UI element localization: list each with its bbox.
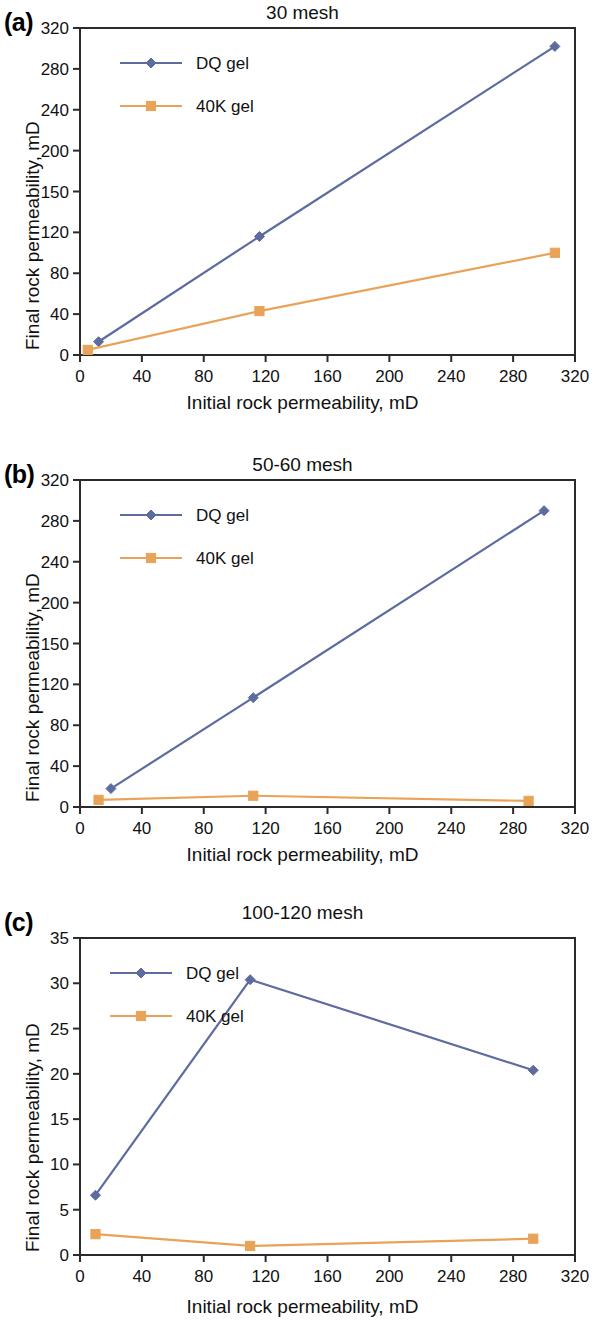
chart-panel-a: (a) 30 mesh 0408012016020024028032004080… [0,0,605,440]
data-point-marker [529,1234,538,1243]
series-line-dq-gel [111,511,544,789]
data-point-marker [94,795,103,804]
y-tick-label: 150 [41,183,69,202]
legend-marker-40k-gel [136,1011,145,1020]
plot-frame [80,480,575,807]
x-tick-label: 80 [194,367,213,386]
legend-marker-dq-gel [146,510,156,520]
legend-marker-40k-gel [146,101,155,110]
x-tick-label: 280 [499,819,527,838]
legend-marker-40k-gel [146,553,155,562]
y-tick-label: 0 [60,346,69,365]
x-tick-label: 40 [132,1267,151,1286]
series-line-40k-gel [95,1234,533,1246]
data-point-marker [550,248,559,257]
legend-marker-dq-gel [136,968,146,978]
series-line-40k-gel [88,253,555,350]
y-tick-label: 10 [50,1155,69,1174]
y-tick-label: 120 [41,223,69,242]
data-point-marker [249,791,258,800]
y-tick-label: 320 [41,471,69,490]
plot-area-c: 0408012016020024028032005101520253035DQ … [0,900,605,1300]
legend-label-dq-gel: DQ gel [186,964,239,983]
y-tick-label: 30 [50,974,69,993]
x-tick-label: 160 [313,367,341,386]
y-tick-label: 5 [60,1201,69,1220]
legend-label-dq-gel: DQ gel [196,54,249,73]
y-tick-label: 240 [41,553,69,572]
data-point-marker [91,1230,100,1239]
plot-area-b: 0408012016020024028032004080120150200240… [0,452,605,852]
x-tick-label: 320 [561,1267,589,1286]
y-tick-label: 280 [41,512,69,531]
y-tick-label: 280 [41,60,69,79]
x-tick-label: 120 [251,367,279,386]
chart-panel-c: (c) 100-120 mesh 04080120160200240280320… [0,900,605,1334]
x-tick-label: 240 [437,367,465,386]
chart-panel-b: (b) 50-60 mesh 0408012016020024028032004… [0,452,605,892]
x-tick-label: 120 [251,819,279,838]
plot-area-a: 0408012016020024028032004080120150200240… [0,0,605,400]
x-tick-label: 120 [251,1267,279,1286]
x-tick-label: 80 [194,1267,213,1286]
x-axis-title-c: Initial rock permeability, mD [0,1296,605,1318]
legend-label-40k-gel: 40K gel [186,1007,244,1026]
y-tick-label: 35 [50,929,69,948]
y-tick-label: 320 [41,19,69,38]
x-tick-label: 160 [313,819,341,838]
y-axis-title-b: Final rock permeability, mD [22,573,44,802]
y-tick-label: 80 [50,716,69,735]
x-tick-label: 40 [132,367,151,386]
y-tick-label: 0 [60,798,69,817]
data-point-marker [524,796,533,805]
legend-marker-dq-gel [146,58,156,68]
x-tick-label: 160 [313,1267,341,1286]
x-tick-label: 240 [437,1267,465,1286]
x-tick-label: 280 [499,367,527,386]
legend-label-40k-gel: 40K gel [196,97,254,116]
y-tick-label: 80 [50,264,69,283]
x-tick-label: 320 [561,819,589,838]
series-line-40k-gel [99,796,529,801]
x-axis-title-b: Initial rock permeability, mD [0,844,605,866]
y-tick-label: 40 [50,757,69,776]
data-point-marker [528,1065,538,1075]
x-tick-label: 40 [132,819,151,838]
y-tick-label: 15 [50,1110,69,1129]
plot-frame [80,938,575,1255]
figure-permeability-comparison: (a) 30 mesh 0408012016020024028032004080… [0,0,605,1334]
y-tick-label: 25 [50,1020,69,1039]
x-axis-title-a: Initial rock permeability, mD [0,392,605,414]
x-tick-label: 0 [75,819,84,838]
y-tick-label: 150 [41,635,69,654]
y-tick-label: 0 [60,1246,69,1265]
x-tick-label: 200 [375,819,403,838]
y-axis-title-c: Final rock permeability, mD [22,1023,44,1252]
x-tick-label: 200 [375,367,403,386]
x-tick-label: 280 [499,1267,527,1286]
x-tick-label: 80 [194,819,213,838]
x-tick-label: 320 [561,367,589,386]
y-tick-label: 200 [41,142,69,161]
y-tick-label: 40 [50,305,69,324]
data-point-marker [246,1241,255,1250]
x-tick-label: 200 [375,1267,403,1286]
x-tick-label: 0 [75,367,84,386]
y-axis-title-a: Final rock permeability, mD [22,121,44,350]
legend-label-dq-gel: DQ gel [196,506,249,525]
data-point-marker [255,306,264,315]
legend-label-40k-gel: 40K gel [196,549,254,568]
y-tick-label: 20 [50,1065,69,1084]
data-point-marker [83,345,92,354]
y-tick-label: 120 [41,675,69,694]
x-tick-label: 0 [75,1267,84,1286]
y-tick-label: 200 [41,594,69,613]
series-line-dq-gel [95,980,533,1196]
y-tick-label: 240 [41,101,69,120]
x-tick-label: 240 [437,819,465,838]
